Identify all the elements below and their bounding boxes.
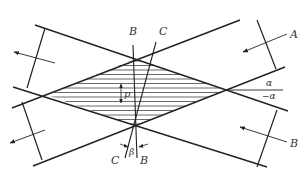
beam-edge-rising-lower [33, 67, 285, 166]
label-alpha: α [266, 78, 272, 88]
arrow-icon [243, 34, 287, 52]
label-c-bottom: C [111, 154, 120, 167]
wavefront-bottom-right [257, 110, 277, 167]
wavefront-bottom-left [22, 102, 42, 160]
line-c [125, 42, 156, 158]
label-c-top: C [159, 25, 168, 38]
beam-edges [12, 20, 288, 167]
label-b-top: B [128, 25, 137, 38]
labels: A B B C C B β α −α p [111, 25, 298, 167]
label-b-right: B [289, 137, 298, 150]
fringe-hatching [40, 61, 240, 124]
label-p: p [124, 88, 131, 99]
interference-diagram: A B B C C B β α −α p [0, 0, 303, 175]
wavefront-top-right [257, 20, 276, 69]
label-b-bottom: B [139, 154, 148, 167]
wavefront-brackets [22, 20, 277, 167]
label-a: A [289, 28, 298, 41]
reference-lines [125, 42, 156, 158]
propagation-arrows [10, 34, 287, 143]
arrow-icon [10, 130, 45, 143]
label-beta: β [128, 147, 134, 157]
arrow-icon [240, 127, 287, 142]
label-neg-alpha: −α [262, 91, 276, 101]
